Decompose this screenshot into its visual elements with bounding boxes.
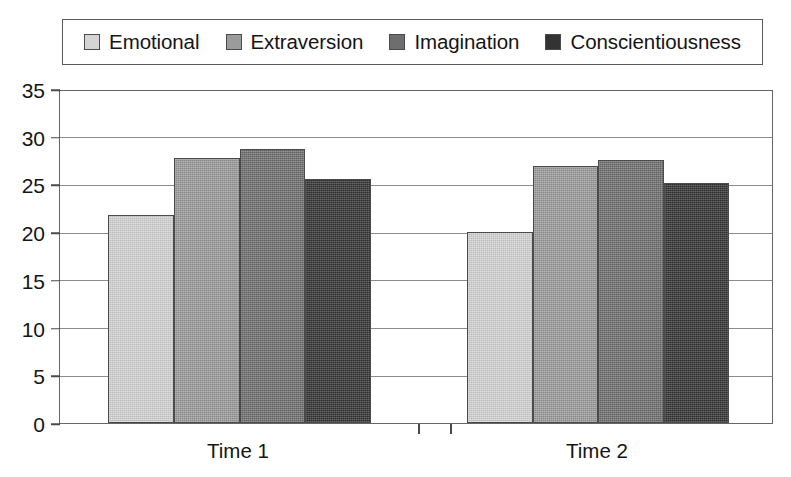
legend-entry[interactable]: Conscientiousness — [545, 32, 740, 53]
x-axis-category-label: Time 1 — [207, 441, 269, 462]
legend-label: Extraversion — [251, 32, 364, 53]
bar — [533, 166, 599, 423]
chart-legend: EmotionalExtraversionImaginationConscien… — [62, 19, 763, 65]
bar — [598, 160, 664, 423]
bar — [664, 183, 730, 423]
bar-texture — [241, 150, 305, 422]
y-axis-tick-mark — [51, 280, 60, 282]
y-axis-tick-label: 20 — [22, 223, 45, 244]
legend-label: Conscientiousness — [570, 32, 740, 53]
legend-swatch-icon — [389, 34, 405, 50]
x-axis-tick-mark — [418, 424, 420, 434]
legend-entry[interactable]: Emotional — [84, 32, 199, 53]
y-axis-tick-mark — [51, 232, 60, 234]
y-axis-tick-label: 35 — [22, 80, 45, 101]
legend-swatch-icon — [545, 34, 561, 50]
y-axis-tick-mark — [51, 137, 60, 139]
y-axis: 05101520253035 — [0, 90, 45, 424]
y-axis-tick-label: 25 — [22, 175, 45, 196]
legend-label: Imagination — [414, 32, 519, 53]
bar-texture — [468, 233, 532, 422]
y-axis-tick-mark — [51, 89, 60, 91]
bar — [240, 149, 306, 423]
legend-entry[interactable]: Extraversion — [226, 32, 364, 53]
y-axis-tick-label: 0 — [33, 414, 45, 435]
bar — [305, 179, 371, 423]
legend-swatch-icon — [84, 34, 100, 50]
bar — [467, 232, 533, 423]
y-axis-tick-label: 10 — [22, 318, 45, 339]
y-axis-tick-mark — [51, 376, 60, 378]
y-axis-tick-label: 5 — [33, 366, 45, 387]
bar — [108, 215, 174, 423]
y-axis-tick-label: 30 — [22, 127, 45, 148]
y-axis-tick-mark — [51, 185, 60, 187]
x-axis-category-label: Time 2 — [566, 441, 628, 462]
bar-texture — [534, 167, 598, 422]
bar — [174, 158, 240, 423]
legend-entry[interactable]: Imagination — [389, 32, 519, 53]
bar-texture — [306, 180, 370, 422]
bar-texture — [175, 159, 239, 422]
y-axis-tick-mark — [51, 423, 60, 425]
bar-texture — [109, 216, 173, 422]
bar-chart: EmotionalExtraversionImaginationConscien… — [0, 0, 791, 477]
y-axis-tick-mark — [51, 328, 60, 330]
x-axis-tick-mark — [450, 424, 452, 434]
bar-texture — [599, 161, 663, 422]
bar-texture — [665, 184, 729, 422]
gridline — [60, 137, 772, 138]
legend-swatch-icon — [226, 34, 242, 50]
plot-area — [59, 90, 773, 424]
legend-label: Emotional — [109, 32, 199, 53]
y-axis-tick-label: 15 — [22, 270, 45, 291]
